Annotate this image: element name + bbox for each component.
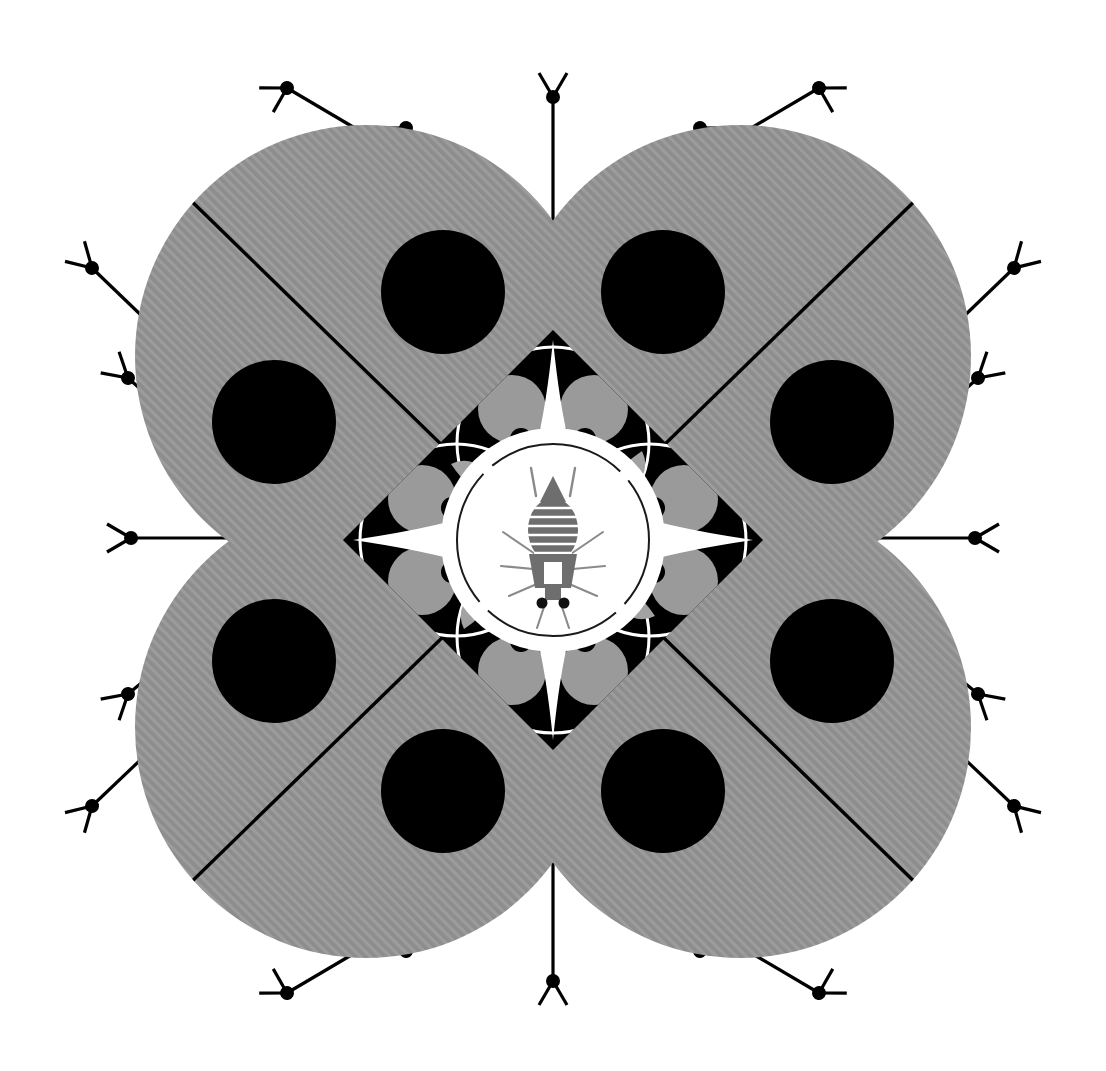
disc-dot <box>212 599 336 723</box>
artwork-canvas <box>0 0 1106 1071</box>
insect-eye-dot <box>537 598 548 609</box>
insect-abdomen <box>528 498 578 562</box>
artwork-svg <box>0 0 1106 1071</box>
thorax-marking <box>544 562 562 584</box>
disc-dot <box>381 230 505 354</box>
insect-tail-segment <box>545 586 561 600</box>
disc-dot <box>601 729 725 853</box>
disc-dot <box>381 729 505 853</box>
insect-eye-dot <box>559 598 570 609</box>
disc-dot <box>770 360 894 484</box>
disc-dot <box>601 230 725 354</box>
disc-dot <box>770 599 894 723</box>
disc-dot <box>212 360 336 484</box>
insect-thorax <box>529 554 577 588</box>
